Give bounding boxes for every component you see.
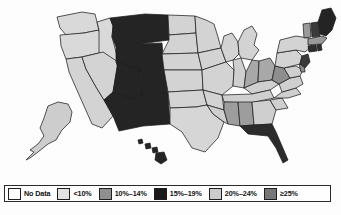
state-NY[interactable] bbox=[277, 36, 312, 53]
legend-swatch-no-data bbox=[8, 188, 21, 200]
legend-swatch-10-14 bbox=[99, 188, 112, 200]
state-RI[interactable] bbox=[317, 44, 322, 51]
state-OK[interactable] bbox=[168, 90, 207, 108]
legend-label-10-14: 10%–14% bbox=[115, 189, 147, 198]
legend-swatch-15-19 bbox=[154, 188, 167, 200]
state-MT[interactable] bbox=[110, 14, 169, 47]
legend-label-15-19: 15%–19% bbox=[170, 189, 202, 198]
state-AL[interactable] bbox=[238, 102, 254, 126]
legend-entry-no-data[interactable]: No Data bbox=[8, 188, 50, 200]
map-canvas bbox=[0, 0, 341, 178]
map-legend: No Data <10% 10%–14% 15%–19% 20%–24% ≥25… bbox=[4, 185, 331, 202]
legend-entry-15-19[interactable]: 15%–19% bbox=[154, 188, 202, 200]
state-CO[interactable] bbox=[140, 68, 168, 95]
state-HI-part[interactable] bbox=[152, 147, 158, 153]
state-CT[interactable] bbox=[308, 45, 317, 52]
state-MI[interactable] bbox=[238, 26, 259, 60]
state-HI-part[interactable] bbox=[155, 152, 167, 164]
legend-label-20-24: 20%–24% bbox=[225, 189, 257, 198]
state-HI-part[interactable] bbox=[138, 139, 143, 144]
legend-swatch-under-10 bbox=[57, 188, 70, 200]
state-MN[interactable] bbox=[195, 16, 221, 53]
state-HI[interactable] bbox=[138, 139, 167, 164]
state-ME[interactable] bbox=[318, 8, 336, 36]
state-NM[interactable] bbox=[141, 94, 170, 126]
legend-swatch-25-plus bbox=[264, 188, 277, 200]
us-states-map bbox=[0, 0, 341, 178]
legend-entry-under-10[interactable]: <10% bbox=[57, 188, 91, 200]
state-VT[interactable] bbox=[303, 23, 311, 38]
state-IL[interactable] bbox=[233, 58, 246, 88]
choropleth-map-figure: No Data <10% 10%–14% 15%–19% 20%–24% ≥25… bbox=[0, 0, 341, 215]
legend-entry-25-plus[interactable]: ≥25% bbox=[264, 188, 298, 200]
legend-swatch-20-24 bbox=[209, 188, 222, 200]
legend-entry-20-24[interactable]: 20%–24% bbox=[209, 188, 257, 200]
state-NE[interactable] bbox=[162, 53, 202, 70]
state-AK[interactable] bbox=[26, 102, 72, 160]
state-FL[interactable] bbox=[240, 124, 288, 163]
state-HI-part[interactable] bbox=[145, 143, 151, 149]
legend-label-25-plus: ≥25% bbox=[280, 189, 298, 198]
state-ND[interactable] bbox=[168, 15, 196, 35]
legend-label-no-data: No Data bbox=[24, 189, 50, 198]
legend-label-under-10: <10% bbox=[73, 189, 91, 198]
legend-entry-10-14[interactable]: 10%–14% bbox=[99, 188, 147, 200]
state-KS[interactable] bbox=[164, 70, 203, 92]
